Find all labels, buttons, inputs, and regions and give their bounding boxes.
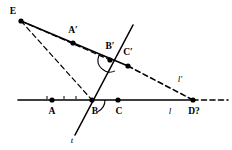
point-label-ap: A′ — [68, 26, 78, 36]
dashed-ray-e-to-b — [21, 21, 92, 100]
geometry-figure: EA′B′C′ABCD?ll′t — [0, 0, 232, 150]
line-label-l-prime: l′ — [178, 75, 182, 84]
point-dot-e — [18, 18, 23, 23]
point-label-a: A — [49, 107, 56, 117]
figure-canvas — [0, 0, 232, 150]
line-label-t: t — [71, 136, 74, 145]
point-dot-b — [89, 97, 94, 102]
point-label-cp: C′ — [123, 48, 133, 58]
point-label-b: B — [92, 107, 98, 117]
point-dot-a — [49, 97, 54, 102]
line-t — [75, 25, 133, 135]
line-group — [18, 21, 228, 135]
point-dot-cp — [125, 63, 130, 68]
line-label-l: l — [169, 107, 172, 116]
point-label-c: C — [116, 107, 123, 117]
line-l-prime-dashed — [128, 66, 193, 100]
point-label-e: E — [10, 7, 16, 17]
arc-at-B — [98, 100, 105, 111]
point-dot-c — [115, 97, 120, 102]
point-dot-ap — [70, 40, 75, 45]
point-dot-bp — [107, 57, 112, 62]
point-label-d: D? — [188, 107, 200, 117]
point-dot-d — [190, 97, 195, 102]
point-label-bp: B′ — [105, 42, 114, 52]
